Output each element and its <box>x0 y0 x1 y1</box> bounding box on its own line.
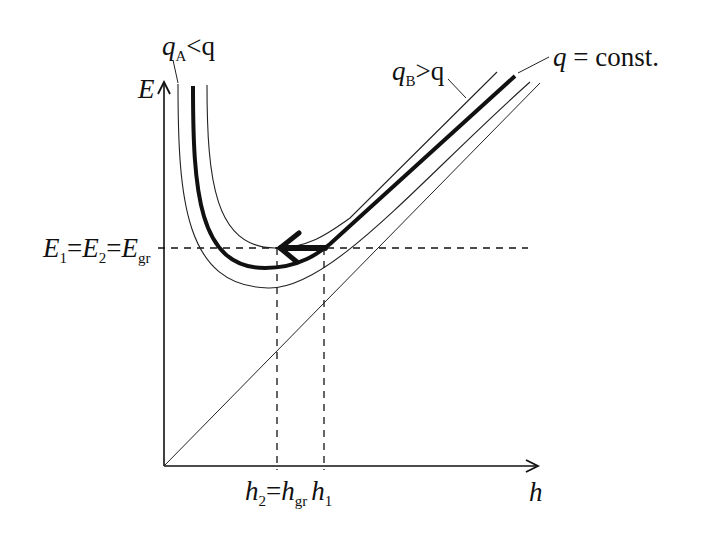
specific-energy-diagram: E h qA<q qB>q q = const. E1=E2=Egr h2=hg… <box>0 0 704 550</box>
q-const-leader <box>518 57 549 73</box>
curve-q-const <box>193 76 515 268</box>
transition-arrow <box>280 233 325 262</box>
q-const-label: q = const. <box>553 42 659 72</box>
x-axis-label: h <box>529 477 543 507</box>
depth-labels: h2=hgrh1 <box>245 476 332 509</box>
leader-lines <box>173 57 549 98</box>
reference-lines <box>158 248 528 470</box>
qB-leader <box>448 79 466 98</box>
qB-label: qB>q <box>392 56 445 89</box>
asymptote-line <box>164 83 540 466</box>
qA-label: qA<q <box>162 31 216 64</box>
y-axis-label: E <box>137 74 155 104</box>
critical-energy-label: E1=E2=Egr <box>42 233 150 266</box>
